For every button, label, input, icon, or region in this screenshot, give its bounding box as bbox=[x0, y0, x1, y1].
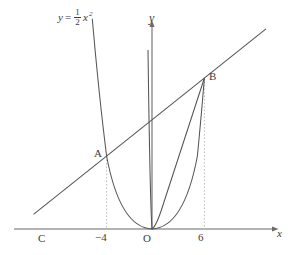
x-axis bbox=[14, 226, 279, 231]
y-axis-label: y bbox=[149, 12, 154, 24]
equation-variable: x bbox=[83, 12, 88, 23]
y-axis bbox=[149, 21, 154, 230]
point-label-b: B bbox=[209, 71, 216, 82]
curve-narrow-parabola bbox=[148, 50, 204, 229]
equation-exponent: 2 bbox=[89, 11, 93, 18]
equation-equals-sign: = bbox=[65, 12, 71, 23]
x-tick-label-neg-4: −4 bbox=[95, 232, 107, 243]
equation-label: y = 1 2 x 2 bbox=[58, 8, 93, 28]
origin-label: O bbox=[143, 233, 151, 244]
equation-denominator: 2 bbox=[74, 18, 81, 27]
coordinate-plot bbox=[0, 0, 291, 255]
x-axis-label: x bbox=[277, 228, 282, 239]
x-tick-label-6: 6 bbox=[198, 232, 204, 243]
point-label-c: C bbox=[38, 233, 45, 244]
equation-fraction: 1 2 bbox=[74, 8, 81, 28]
equation-lhs: y bbox=[58, 12, 63, 23]
point-label-a: A bbox=[94, 148, 102, 159]
equation-numerator: 1 bbox=[74, 8, 81, 17]
figure-canvas: y = 1 2 x 2 y x A B C O −4 6 bbox=[0, 0, 291, 255]
line-through-c-a-b bbox=[34, 29, 267, 215]
